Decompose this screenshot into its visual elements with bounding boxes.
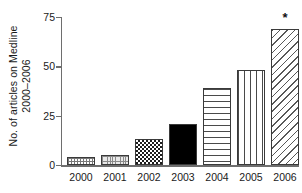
bar-2000[interactable]: [67, 157, 95, 165]
y-axis-title-line1: No. of articles on Medline: [7, 25, 19, 146]
bar-slot-2000: [67, 17, 95, 165]
bar-2004[interactable]: [203, 88, 231, 165]
bar-slot-2001: [101, 17, 129, 165]
bar-2003[interactable]: [169, 124, 197, 165]
bar-2006[interactable]: [271, 29, 299, 165]
plot-area: *: [61, 17, 299, 165]
y-tick-label-25: 25: [29, 111, 55, 121]
bar-slot-2003: [169, 17, 197, 165]
significance-asterisk: *: [271, 13, 299, 23]
bar-slot-2006: *: [271, 17, 299, 165]
y-axis-title: No. of articles on Medline 2000–2006: [0, 0, 40, 172]
y-axis-title-line2: 2000–2006: [20, 25, 33, 146]
bar-chart-figure: No. of articles on Medline 2000–2006 75 …: [0, 0, 302, 193]
bar-slot-2005: [237, 17, 265, 165]
bar-slot-2002: [135, 17, 163, 165]
y-tick-label-75: 75: [29, 12, 55, 22]
bar-2001[interactable]: [101, 155, 129, 165]
y-tick-label-0: 0: [29, 160, 55, 170]
bar-2002[interactable]: [135, 139, 163, 165]
bar-slot-2004: [203, 17, 231, 165]
x-tick-label-2006: 2006: [265, 171, 302, 183]
x-axis-line: [61, 165, 299, 166]
y-tick-label-50: 50: [29, 61, 55, 71]
bar-2005[interactable]: [237, 70, 265, 165]
